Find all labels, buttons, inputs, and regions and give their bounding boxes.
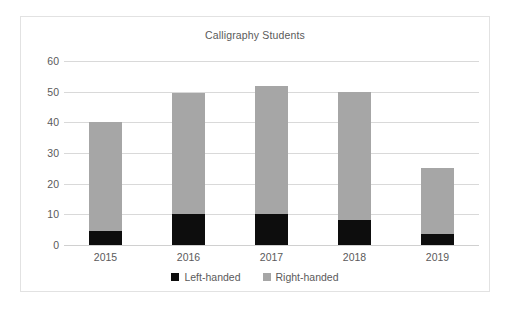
bar-segment-right-handed[interactable] (338, 92, 371, 221)
chart-legend: Left-handedRight-handed (21, 271, 489, 283)
legend-swatch-icon (171, 273, 179, 281)
axis-baseline (64, 245, 479, 246)
legend-label: Left-handed (184, 271, 240, 283)
bar-segment-left-handed[interactable] (89, 231, 122, 245)
bar-segment-left-handed[interactable] (421, 234, 454, 245)
y-axis-tick-label: 0 (29, 239, 59, 251)
bar-segment-left-handed[interactable] (172, 214, 205, 245)
bar-segment-right-handed[interactable] (89, 122, 122, 231)
plot-area (64, 61, 479, 245)
y-axis-tick-label: 50 (29, 86, 59, 98)
y-axis-tick-label: 60 (29, 55, 59, 67)
y-axis: 0102030405060 (26, 61, 59, 245)
chart-title: Calligraphy Students (21, 29, 489, 41)
x-axis-tick-label: 2015 (71, 251, 141, 263)
x-axis-tick-label: 2019 (403, 251, 473, 263)
y-axis-tick-label: 10 (29, 208, 59, 220)
bar-segment-right-handed[interactable] (255, 86, 288, 215)
y-axis-tick-label: 20 (29, 178, 59, 190)
y-axis-tick-label: 40 (29, 116, 59, 128)
legend-item[interactable]: Left-handed (171, 271, 240, 283)
gridline (64, 61, 479, 62)
legend-item[interactable]: Right-handed (263, 271, 339, 283)
bar-segment-left-handed[interactable] (255, 214, 288, 245)
bar-segment-left-handed[interactable] (338, 220, 371, 245)
chart-container: Calligraphy Students 0102030405060 Left-… (20, 16, 490, 292)
legend-swatch-icon (263, 273, 271, 281)
legend-label: Right-handed (276, 271, 339, 283)
y-axis-tick-label: 30 (29, 147, 59, 159)
x-axis-tick-label: 2017 (237, 251, 307, 263)
x-axis-tick-label: 2018 (320, 251, 390, 263)
bar-segment-right-handed[interactable] (172, 93, 205, 214)
bar-segment-right-handed[interactable] (421, 168, 454, 234)
x-axis-tick-label: 2016 (154, 251, 224, 263)
